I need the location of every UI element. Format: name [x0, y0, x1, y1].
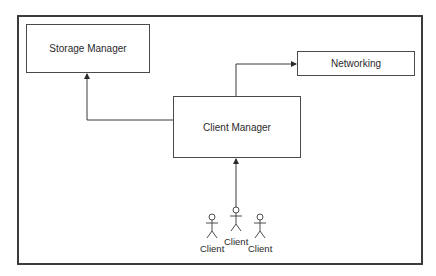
connectors [0, 0, 436, 276]
client-label-center: Client [224, 236, 248, 247]
arrow-client-manager-to-storage-manager [87, 74, 173, 120]
client-label-right: Client [248, 243, 272, 254]
client-actor-left-icon [206, 214, 218, 238]
arrow-client-manager-to-networking [236, 64, 296, 96]
client-actor-right-icon [254, 214, 266, 238]
client-actor-center-icon [230, 207, 242, 231]
client-label-left: Client [200, 243, 224, 254]
